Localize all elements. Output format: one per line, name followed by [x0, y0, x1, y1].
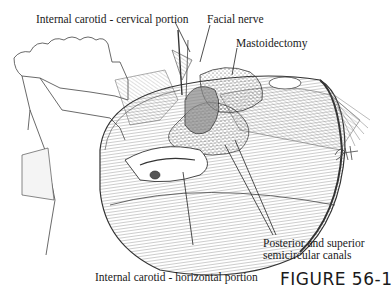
label-mastoidectomy: Mastoidectomy: [236, 37, 308, 49]
label-facial-nerve: Facial nerve: [207, 13, 264, 25]
figure-caption: FIGURE 56-1: [280, 269, 392, 289]
label-canals-line2: semicircular canals: [263, 249, 351, 261]
label-canals-line1: Posterior and superior: [263, 237, 365, 249]
opening-drawing: [269, 77, 301, 89]
label-carotid-horizontal: Internal carotid - horizontal portion: [95, 271, 258, 283]
label-carotid-cervical: Internal carotid - cervical portion: [36, 13, 189, 25]
ramus-drawing: [22, 148, 54, 200]
